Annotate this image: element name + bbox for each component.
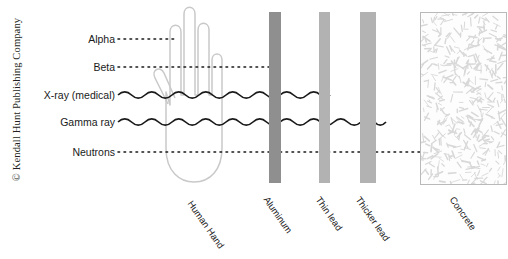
ray-gamma <box>118 119 386 125</box>
ray-label-beta: Beta <box>0 61 115 73</box>
ray-label-alpha: Alpha <box>0 33 115 45</box>
ray-label-xray: X-ray (medical) <box>0 89 115 101</box>
barrier-concrete <box>420 12 507 185</box>
barrier-thicker-lead <box>360 12 376 183</box>
ray-label-gamma: Gamma ray <box>0 116 115 128</box>
barrier-aluminum <box>269 12 281 183</box>
ray-label-neutron: Neutrons <box>0 146 115 158</box>
ray-xray <box>118 92 330 98</box>
radiation-penetration-figure: © Kendall Hunt Publishing Company AlphaB… <box>0 0 508 259</box>
barrier-thin-lead <box>319 12 330 183</box>
